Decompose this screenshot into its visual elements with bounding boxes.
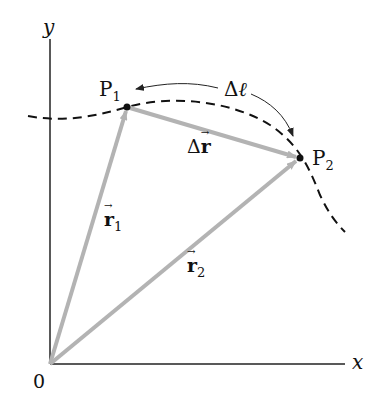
vector-r1 [50,111,126,364]
arc-length-arrow-right [251,94,293,136]
p1-name: P [99,77,112,101]
arc-length-arrow-left [136,84,218,89]
delta-l-prefix: Δ [224,77,238,101]
r2-symbol: r [187,256,197,275]
p2-label: P2 [312,148,334,168]
point-p2 [297,155,304,162]
delta-r-symbol: r [201,137,211,156]
vector-r2 [50,161,296,364]
r1-symbol: r [104,210,114,229]
particle-path [28,101,345,232]
p2-name: P [312,146,325,170]
delta-r-label: Δr [187,137,211,156]
delta-l-symbol: ℓ [238,77,246,101]
r1-label: r1 [104,210,122,229]
y-axis-label: y [43,17,54,37]
diagram-canvas: y x 0 P1 P2 Δℓ Δr r1 r2 [0,0,386,419]
p1-label: P1 [99,79,121,99]
delta-l-label: Δℓ [224,79,247,99]
diagram-svg [0,0,386,419]
vector-delta-r [130,108,296,157]
delta-r-prefix: Δ [187,135,201,157]
point-p1 [124,104,131,111]
p2-subscript: 2 [325,158,333,173]
r2-subscript: 2 [197,265,205,280]
x-axis-label: x [352,352,363,372]
origin-label: 0 [33,372,45,391]
r2-label: r2 [187,256,205,275]
r1-subscript: 1 [114,219,122,234]
p1-subscript: 1 [112,89,120,104]
